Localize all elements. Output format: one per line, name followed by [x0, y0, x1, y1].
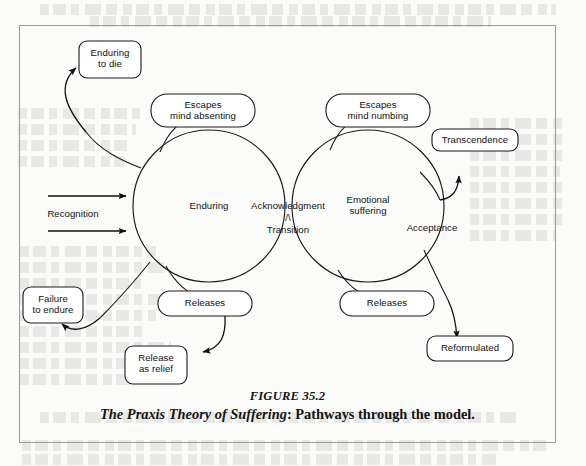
figure-caption-line: The Praxis Theory of Suffering: Pathways… [19, 406, 556, 423]
figure-frame [19, 25, 556, 443]
figure-caption: FIGURE 35.2 The Praxis Theory of Sufferi… [19, 389, 556, 423]
figure-caption-subtitle: : Pathways through the model. [287, 406, 475, 422]
figure-caption-title: The Praxis Theory of Suffering [100, 406, 287, 422]
figure-number: FIGURE 35.2 [19, 389, 556, 404]
